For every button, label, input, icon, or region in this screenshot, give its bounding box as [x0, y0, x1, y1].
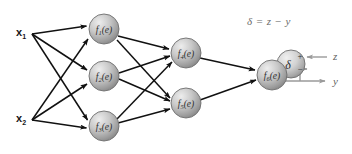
input-label-x2: x2	[16, 113, 26, 126]
node-hidden-node-5[interactable]: f5(e)	[171, 88, 201, 118]
delta-minus-sign: −	[297, 64, 302, 74]
output-label-y: y	[333, 76, 338, 87]
edge-h1-h4	[118, 36, 169, 49]
svg-text:f1(e): f1(e)	[96, 25, 112, 36]
edge-x2-h3	[32, 120, 87, 128]
node-hidden-node-3[interactable]: f3(e)	[89, 111, 119, 141]
node-hidden-node-2[interactable]: f2(e)	[89, 61, 119, 91]
input-label-x1: x1	[16, 27, 26, 40]
node-hidden-node-1[interactable]: f1(e)	[89, 14, 119, 44]
network-canvas: f1(e) f2(e) f3(e) f4(e) f5(e) δ + − f6(e…	[0, 0, 352, 154]
svg-text:f3(e): f3(e)	[96, 122, 112, 133]
edge-group-input-to-hidden	[32, 26, 88, 128]
edge-x2-h2	[32, 84, 87, 120]
target-label-z: z	[333, 51, 337, 62]
svg-text:f5(e): f5(e)	[178, 99, 194, 110]
neural-network-diagram: f1(e) f2(e) f3(e) f4(e) f5(e) δ + − f6(e…	[0, 0, 352, 154]
svg-text:f2(e): f2(e)	[96, 72, 112, 83]
edge-h5-out	[200, 80, 256, 100]
edge-group-layer2-to-output	[200, 58, 256, 100]
delta-plus-sign: +	[297, 51, 302, 61]
edge-group-hidden-to-layer2	[117, 36, 172, 123]
svg-text:f4(e): f4(e)	[178, 49, 194, 60]
delta-equation: δ = z − y	[247, 16, 291, 27]
node-hidden-node-4[interactable]: f4(e)	[171, 38, 201, 68]
edge-x1-h1	[32, 26, 87, 34]
edge-h4-out	[200, 58, 255, 70]
edge-h3-h5	[118, 109, 170, 123]
node-output-node-6[interactable]: f6(e)	[257, 60, 287, 90]
svg-text:f6(e): f6(e)	[264, 71, 280, 82]
